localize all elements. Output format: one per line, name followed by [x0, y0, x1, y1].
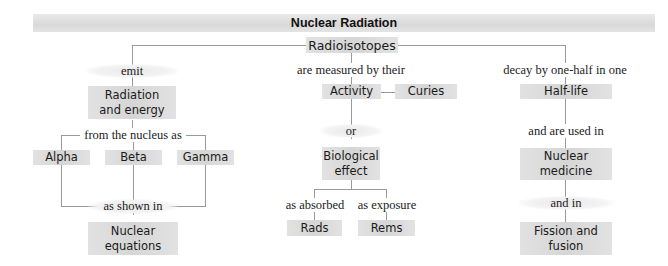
link-as-shown-in: as shown in: [88, 199, 178, 214]
node-rems: Rems: [358, 220, 415, 236]
node-fission-and-fusion: Fission and fusion: [520, 222, 612, 255]
node-curies: Curies: [395, 84, 457, 99]
node-radioisotopes: Radioisotopes: [306, 37, 398, 53]
connector: [381, 92, 395, 93]
node-gamma: Gamma: [177, 150, 234, 165]
node-label: Fission and fusion: [531, 224, 601, 254]
connector: [314, 189, 387, 190]
node-activity: Activity: [322, 84, 381, 99]
link-or: or: [320, 124, 382, 138]
node-biological-effect: Biological effect: [322, 147, 380, 180]
node-alpha: Alpha: [33, 150, 90, 165]
node-rads: Rads: [287, 220, 342, 236]
connector: [61, 135, 62, 206]
link-as-exposure: as exposure: [356, 198, 418, 212]
node-label: Nuclear equations: [98, 224, 168, 254]
connector: [205, 135, 206, 206]
node-radiation-and-energy: Radiation and energy: [88, 86, 176, 119]
link-decay-by-one-half-in-one: decay by one-half in one: [503, 63, 627, 77]
node-label: Radiation and energy: [97, 88, 167, 118]
node-label: Biological effect: [323, 149, 379, 179]
link-as-absorbed: as absorbed: [284, 198, 346, 212]
connector: [351, 180, 352, 189]
diagram-title: Nuclear Radiation: [33, 14, 655, 32]
node-nuclear-medicine: Nuclear medicine: [520, 148, 612, 180]
link-emit: emit: [85, 64, 179, 78]
node-label: Nuclear medicine: [536, 149, 596, 179]
link-and-in: and in: [518, 196, 614, 210]
link-and-are-used-in: and are used in: [520, 124, 612, 138]
node-nuclear-equations: Nuclear equations: [88, 222, 178, 255]
node-beta: Beta: [105, 150, 162, 165]
link-are-measured-by-their: are measured by their: [294, 63, 408, 77]
node-half-life: Half-life: [520, 84, 612, 99]
link-from-the-nucleus-as: from the nucleus as: [80, 128, 186, 142]
